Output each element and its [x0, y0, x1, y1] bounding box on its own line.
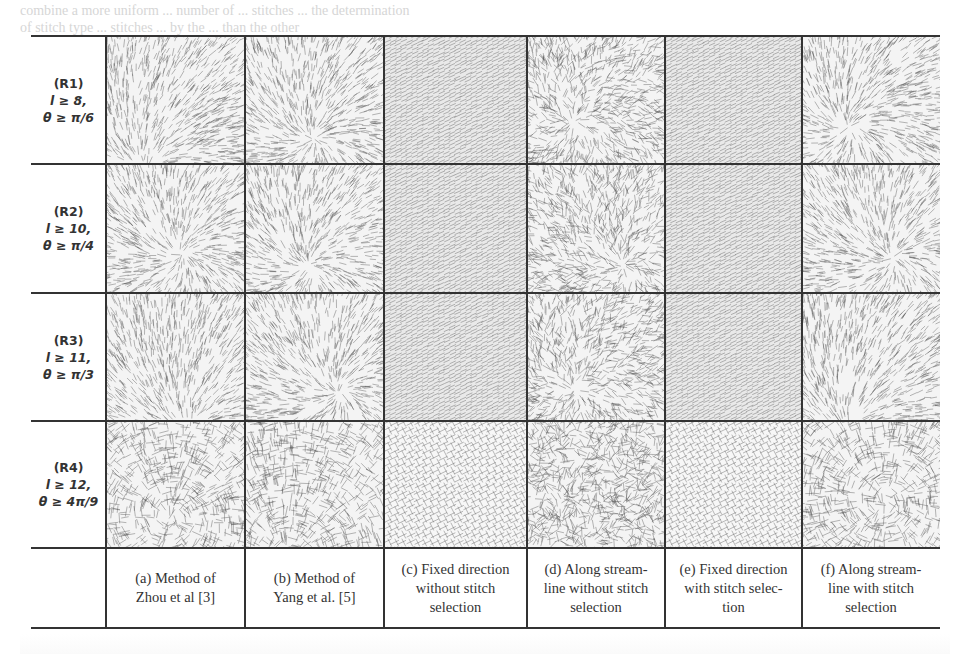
stitch-texture [665, 293, 802, 421]
stitch-texture [245, 293, 384, 421]
stitch-texture-strokes [384, 164, 527, 293]
column-caption-a: (a) Method ofZhou et al [3] [106, 548, 245, 628]
page-bottom-margin [20, 634, 950, 654]
background-text: combine a more uniform ... number of ...… [20, 2, 950, 36]
result-image-r4-b [245, 421, 384, 548]
column-caption-line: Yang et al. [5] [273, 588, 355, 607]
result-image-r1-e [665, 36, 802, 164]
row-label-r4: (R4)l ≥ 12,θ ≥ 4π/9 [31, 421, 106, 548]
stitch-texture [384, 421, 527, 548]
table-rule-vertical [526, 36, 528, 628]
stitch-texture [106, 36, 245, 164]
stitch-texture-strokes [245, 164, 384, 293]
column-caption-f: (f) Along stream-line with stitchselecti… [802, 548, 940, 628]
table-rule-vertical [801, 36, 803, 628]
column-caption-line: line without stitch [544, 579, 649, 598]
table-rule-horizontal [31, 292, 940, 294]
stitch-texture-strokes [802, 36, 940, 164]
stitch-texture-strokes [245, 293, 384, 421]
table-rule-vertical [244, 36, 246, 628]
column-caption-line: (d) Along stream- [544, 560, 647, 579]
result-image-r4-f [802, 421, 940, 548]
result-image-r4-e [665, 421, 802, 548]
stitch-texture-strokes [106, 421, 245, 548]
row-label-line: θ ≥ π/4 [31, 237, 106, 254]
column-caption-line: (f) Along stream- [821, 560, 922, 579]
result-image-r3-f [802, 293, 940, 421]
stitch-texture-strokes [384, 36, 527, 164]
stitch-texture-strokes [802, 293, 940, 421]
stitch-texture [802, 421, 940, 548]
table-rule-vertical [664, 36, 666, 628]
stitch-texture-strokes [384, 421, 527, 548]
column-caption-line: selection [570, 598, 622, 617]
result-image-r1-a [106, 36, 245, 164]
table-rule-horizontal [31, 627, 940, 629]
row-label-line: l ≥ 11, [31, 349, 106, 366]
stitch-texture [527, 421, 665, 548]
stitch-texture-strokes [527, 164, 665, 293]
column-caption-line: selection [430, 598, 482, 617]
row-label-line: θ ≥ π/6 [31, 109, 106, 126]
result-image-r4-d [527, 421, 665, 548]
stitch-texture-strokes [802, 164, 940, 293]
column-caption-line: without stitch [416, 579, 495, 598]
stitch-texture-strokes [665, 36, 802, 164]
row-label-line: θ ≥ π/3 [31, 366, 106, 383]
row-label-line: l ≥ 8, [31, 92, 106, 109]
stitch-texture [106, 164, 245, 293]
table-rule-horizontal [31, 420, 940, 422]
stitch-texture-strokes [665, 293, 802, 421]
table-rule-horizontal [31, 35, 940, 37]
stitch-texture-strokes [106, 293, 245, 421]
result-image-r2-f [802, 164, 940, 293]
stitch-texture [527, 36, 665, 164]
row-label-line: l ≥ 12, [31, 476, 106, 493]
stitch-texture-strokes [527, 421, 665, 548]
table-rule-vertical [105, 36, 107, 628]
table-rule-vertical [383, 36, 385, 628]
row-label-r1: (R1)l ≥ 8,θ ≥ π/6 [31, 36, 106, 164]
column-caption-line: (b) Method of [274, 569, 355, 588]
result-image-r2-b [245, 164, 384, 293]
stitch-texture [527, 293, 665, 421]
stitch-texture-strokes [665, 421, 802, 548]
column-caption-line: (a) Method of [135, 569, 216, 588]
stitch-texture [665, 421, 802, 548]
table-rule-horizontal [31, 163, 940, 165]
stitch-texture [106, 293, 245, 421]
stitch-texture [802, 36, 940, 164]
table-rule-horizontal [31, 547, 940, 549]
result-image-r2-e [665, 164, 802, 293]
result-image-r2-c [384, 164, 527, 293]
stitch-texture-strokes [665, 164, 802, 293]
stitch-texture [384, 293, 527, 421]
column-caption-line: (e) Fixed direction [680, 560, 788, 579]
row-label-line: (R3) [31, 332, 106, 349]
result-image-r1-b [245, 36, 384, 164]
result-image-r3-a [106, 293, 245, 421]
column-caption-line: line with stitch [828, 579, 914, 598]
stitch-texture [527, 164, 665, 293]
result-image-r3-e [665, 293, 802, 421]
stitch-texture [384, 164, 527, 293]
stitch-texture [245, 164, 384, 293]
stitch-texture-strokes [384, 293, 527, 421]
result-image-r3-d [527, 293, 665, 421]
stitch-texture [665, 36, 802, 164]
result-image-r1-f [802, 36, 940, 164]
result-image-r1-d [527, 36, 665, 164]
column-caption-d: (d) Along stream-line without stitchsele… [527, 548, 665, 628]
background-text-line-1: combine a more uniform ... number of ...… [20, 2, 950, 19]
result-image-r2-d [527, 164, 665, 293]
column-caption-line: Zhou et al [3] [136, 588, 215, 607]
stitch-texture [384, 36, 527, 164]
stitch-texture [245, 36, 384, 164]
stitch-texture [802, 164, 940, 293]
row-label-line: (R4) [31, 459, 106, 476]
stitch-texture-strokes [106, 36, 245, 164]
stitch-texture-strokes [527, 36, 665, 164]
result-image-r4-c [384, 421, 527, 548]
column-caption-line: tion [722, 598, 745, 617]
result-image-r2-a [106, 164, 245, 293]
